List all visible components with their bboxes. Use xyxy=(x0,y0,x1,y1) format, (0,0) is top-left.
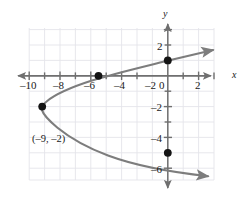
point-y-intercept-upper xyxy=(164,57,172,65)
y-tick-label--2: –2 xyxy=(151,102,162,113)
y-tick-label--4: –4 xyxy=(151,133,162,144)
coordinate-plot xyxy=(0,0,244,200)
point-x-intercept xyxy=(95,72,103,80)
y-axis-label: y xyxy=(163,9,167,19)
vertex-point-label: (–9, –2) xyxy=(32,134,65,145)
point-y-intercept-lower xyxy=(164,149,172,157)
graph-figure: –10 –8 –6 –4 –2 0 2 2 –2 –4 –6 x y (–9, … xyxy=(0,0,244,200)
point-vertex xyxy=(38,103,46,111)
x-tick-label--10: –10 xyxy=(20,80,37,91)
parabola-curve xyxy=(42,50,213,176)
y-tick-label-2: 2 xyxy=(157,41,163,52)
x-tick-label-2: 2 xyxy=(195,80,201,91)
x-tick-label--8: –8 xyxy=(53,80,64,91)
x-tick-label--6: –6 xyxy=(84,80,95,91)
x-axis-label: x xyxy=(232,70,236,80)
grid-lines xyxy=(29,28,214,180)
x-tick-label--4: –4 xyxy=(114,80,125,91)
x-tick-label--2: –2 xyxy=(145,80,156,91)
y-axis xyxy=(164,24,172,188)
x-tick-label-0: 0 xyxy=(159,80,165,91)
y-tick-label--6: –6 xyxy=(151,164,162,175)
